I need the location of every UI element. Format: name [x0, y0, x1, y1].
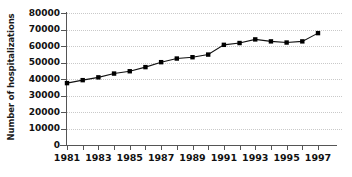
data-point-marker: 1987: 50200 — [159, 60, 163, 64]
data-point-marker: 1984: 43300 — [112, 71, 116, 75]
y-axis-tick-labels: 0100002000030000400005000060000700008000… — [16, 0, 60, 177]
y-axis-tick-label: 80000 — [16, 9, 60, 18]
data-point-marker: 1994: 62800 — [269, 39, 273, 43]
x-axis-tick-mark — [193, 146, 194, 150]
data-point-marker: 1989: 53200 — [190, 55, 194, 59]
x-axis-tick-mark — [161, 146, 162, 150]
x-axis-tick-mark — [287, 146, 288, 150]
data-point-marker: 1996: 62800 — [300, 39, 304, 43]
y-axis-tick-label: 60000 — [16, 42, 60, 51]
x-axis-tick-mark — [271, 146, 272, 150]
y-axis-tick-label: 70000 — [16, 25, 60, 34]
y-axis-tick-label: 50000 — [16, 58, 60, 67]
data-point-marker: 1995: 62100 — [284, 40, 288, 44]
x-axis-tick-mark — [130, 146, 131, 150]
data-point-marker: 1991: 60700 — [222, 43, 226, 47]
x-axis-tick-mark — [208, 146, 209, 150]
y-axis-tick-label: 10000 — [16, 124, 60, 133]
data-point-marker: 1993: 64000 — [253, 37, 257, 41]
data-point-marker: 1982: 39300 — [80, 78, 84, 82]
x-axis-tick-mark — [98, 146, 99, 150]
data-point-marker: 1983: 41000 — [96, 75, 100, 79]
data-point-marker: 1986: 47200 — [143, 65, 147, 69]
x-axis-tick-label: 1997 — [298, 152, 338, 163]
x-axis-tick-mark — [145, 146, 146, 150]
x-axis-tick-mark — [67, 146, 68, 150]
data-point-marker: 1985: 44700 — [128, 69, 132, 73]
x-axis-tick-mark — [224, 146, 225, 150]
x-axis-tick-mark — [240, 146, 241, 150]
y-axis-tick-label: 40000 — [16, 75, 60, 84]
data-point-marker: 1981: 37500 — [65, 81, 69, 85]
x-axis-tick-mark — [318, 146, 319, 150]
data-series-svg: 1981: 375001982: 393001983: 410001984: 4… — [67, 13, 318, 145]
x-axis-tick-mark — [83, 146, 84, 150]
y-axis-tick-label: 20000 — [16, 108, 60, 117]
data-point-marker: 1997: 67800 — [316, 31, 320, 35]
x-axis-tick-mark — [114, 146, 115, 150]
data-point-marker: 1990: 54800 — [206, 52, 210, 56]
y-axis-tick-label: 30000 — [16, 91, 60, 100]
x-axis-tick-mark — [255, 146, 256, 150]
data-point-marker: 1992: 61800 — [237, 41, 241, 45]
y-axis-tick-label: 0 — [16, 141, 60, 150]
x-axis-tick-mark — [302, 146, 303, 150]
data-point-marker: 1988: 52400 — [175, 56, 179, 60]
x-axis-tick-mark — [177, 146, 178, 150]
line-chart: Number of hospitalizations 0100002000030… — [0, 0, 352, 177]
plot-area: 1981: 375001982: 393001983: 410001984: 4… — [67, 13, 318, 145]
x-axis-line — [60, 145, 337, 146]
